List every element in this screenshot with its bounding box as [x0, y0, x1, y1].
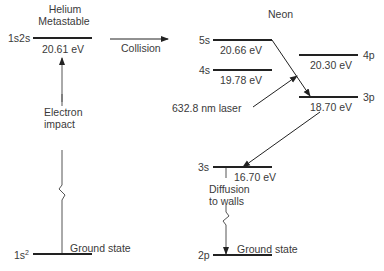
he-ground-config: 1s2 [14, 249, 29, 261]
5s-3p-arrow [272, 40, 310, 96]
he-title-line1: Helium [40, 3, 90, 15]
3p-3s-arrow [243, 112, 320, 167]
he-ground-label: Ground state [70, 242, 131, 254]
ne-3s-state: 3s [198, 161, 209, 173]
ne-ground-label: Ground state [237, 243, 298, 255]
he-title-line2: Metastable [36, 15, 92, 27]
ne-4p-state: 4p [363, 49, 375, 61]
ne-5s-state: 5s [199, 34, 210, 46]
collision-label: Collision [121, 42, 161, 54]
ne-3s-energy: 16.70 eV [234, 171, 276, 183]
diffusion-arrow [223, 205, 229, 254]
electron-impact-line1: Electron [44, 106, 83, 118]
he-metastable-energy: 20.61 eV [42, 43, 84, 55]
electron-impact-line2: impact [44, 118, 75, 130]
diffusion-line1: Diffusion [209, 183, 250, 195]
ne-3p-state: 3p [363, 91, 375, 103]
ne-4s-state: 4s [199, 64, 210, 76]
neon-title: Neon [268, 8, 293, 20]
ne-5s-energy: 20.66 eV [220, 44, 262, 56]
electron-impact-arrow [59, 150, 65, 253]
ne-4s-energy: 19.78 eV [220, 74, 262, 86]
energy-level-diagram [0, 0, 384, 271]
diffusion-line2: to walls [209, 195, 244, 207]
ne-4p-energy: 20.30 eV [310, 59, 352, 71]
laser-label: 632.8 nm laser [172, 102, 241, 114]
he-metastable-state: 1s2s [8, 32, 30, 44]
ne-3p-energy: 18.70 eV [310, 101, 352, 113]
ne-2p-state: 2p [198, 249, 210, 261]
